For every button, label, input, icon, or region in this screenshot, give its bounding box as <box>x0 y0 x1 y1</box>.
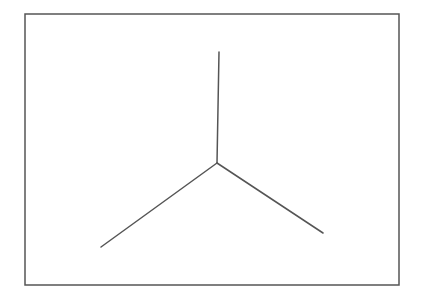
arm-top <box>217 52 219 163</box>
y-junction <box>101 52 323 247</box>
diagram-canvas <box>0 0 422 299</box>
arm-bottom-right <box>217 163 323 233</box>
arm-bottom-left <box>101 163 217 247</box>
frame-rectangle <box>25 14 399 285</box>
